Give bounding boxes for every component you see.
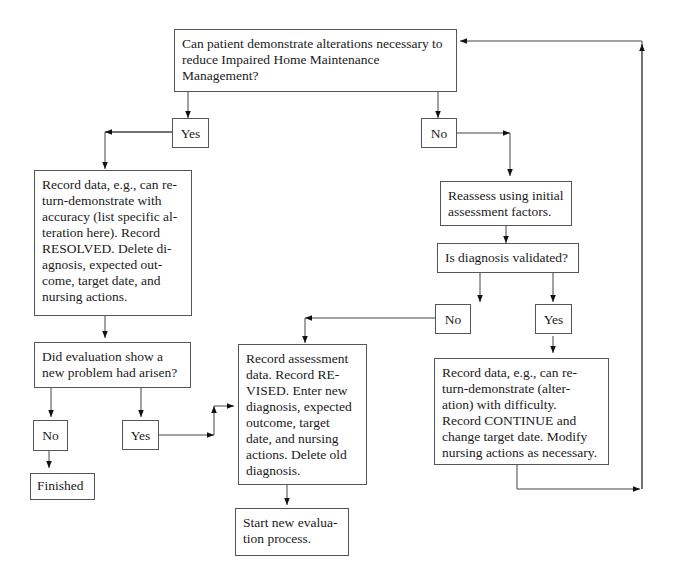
yes-decision-1: Yes: [172, 118, 209, 148]
record-continue-box: Record data, e.g., can re- turn-demonstr…: [434, 358, 609, 465]
new-problem-question-box: Did evaluation show a new problem had ar…: [34, 342, 191, 388]
diagnosis-validated-box: Is diagnosis validated?: [437, 243, 579, 273]
yes-decision-3: Yes: [122, 420, 159, 450]
reassess-box: Reassess using initial assessment factor…: [440, 181, 572, 226]
start-question-box: Can patient demonstrate alterations nece…: [174, 29, 457, 92]
record-revised-box: Record assessment data. Record RE- VISED…: [238, 344, 367, 485]
yes-decision-2: Yes: [535, 304, 572, 334]
finished-box: Finished: [30, 473, 95, 500]
record-resolved-box: Record data, e.g., can re- turn-demonstr…: [34, 170, 192, 316]
start-new-evaluation-box: Start new evalua- tion process.: [235, 508, 349, 556]
no-decision-1: No: [421, 118, 457, 148]
no-decision-2: No: [435, 304, 471, 334]
no-decision-3: No: [33, 420, 68, 451]
